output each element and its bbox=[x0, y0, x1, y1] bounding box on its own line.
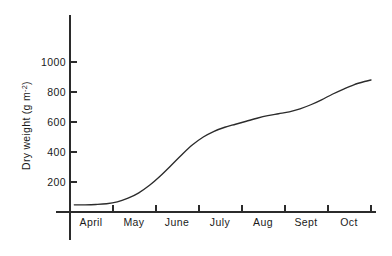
x-tick-label-june: June bbox=[165, 216, 189, 228]
x-tick-label-oct: Oct bbox=[340, 216, 358, 228]
y-tick-label-600: 600 bbox=[47, 116, 66, 128]
svg-text:Dry weight (g m-2): Dry weight (g m-2) bbox=[20, 81, 32, 170]
y-axis-label-main: Dry weight (g m bbox=[20, 92, 32, 170]
y-tick-label-1000: 1000 bbox=[41, 56, 66, 68]
y-tick-label-400: 400 bbox=[47, 146, 66, 158]
data-line-dry-weight bbox=[74, 80, 371, 205]
x-tick-label-july: July bbox=[210, 216, 231, 228]
y-tick-label-800: 800 bbox=[47, 86, 66, 98]
y-axis-label: Dry weight (g m-2) bbox=[20, 81, 32, 170]
x-axis-ticks bbox=[113, 205, 371, 212]
x-tick-label-april: April bbox=[79, 216, 102, 228]
y-axis-label-close: ) bbox=[20, 81, 32, 85]
y-axis-tick-labels: 1000 800 600 400 200 bbox=[41, 56, 66, 188]
x-tick-label-may: May bbox=[123, 216, 144, 228]
chart-figure: Dry weight (g m-2) 1000 800 600 400 200 bbox=[0, 0, 392, 256]
x-tick-label-sept: Sept bbox=[294, 216, 317, 228]
x-tick-label-aug: Aug bbox=[253, 216, 273, 228]
y-tick-label-200: 200 bbox=[47, 176, 66, 188]
y-axis-label-superscript: -2 bbox=[20, 85, 29, 92]
line-chart: Dry weight (g m-2) 1000 800 600 400 200 bbox=[0, 0, 392, 256]
y-axis-ticks bbox=[70, 62, 77, 182]
x-axis-tick-labels: April May June July Aug Sept Oct bbox=[79, 216, 357, 228]
